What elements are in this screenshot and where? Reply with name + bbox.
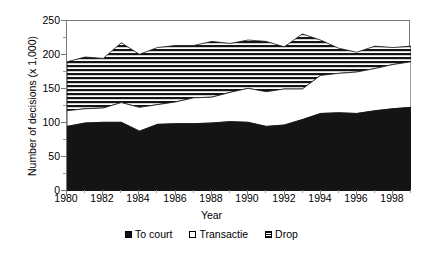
legend-item-transactie: Transactie [189,228,248,240]
x-tick-label-1990: 1990 [227,193,267,204]
x-tick-label-1980: 1980 [46,193,86,204]
legend-label-to-court: To court [135,228,172,240]
striped-swatch-icon [265,231,272,238]
x-tick-label-1996: 1996 [336,193,376,204]
legend-label-transactie: Transactie [199,228,248,240]
y-tick-label-150: 150 [20,83,60,93]
x-tick-label-1992: 1992 [264,193,304,204]
x-tick-label-1994: 1994 [300,193,340,204]
chart-figure: Number of decisions (x 1,000) 250 200 15… [0,0,423,257]
x-tick-label-1984: 1984 [118,193,158,204]
x-tick-label-1982: 1982 [82,193,122,204]
chart-legend: To court Transactie Drop [0,228,423,240]
y-tick-label-50: 50 [20,151,60,161]
solid-black-swatch-icon [125,231,132,238]
legend-label-drop: Drop [275,228,298,240]
y-tick-label-250: 250 [20,15,60,25]
stacked-area-svg [67,21,411,191]
y-tick-label-200: 200 [20,49,60,59]
x-tick-label-1998: 1998 [372,193,412,204]
legend-item-to-court: To court [125,228,172,240]
y-axis-title: Number of decisions (x 1,000) [26,11,38,201]
x-axis-title: Year [0,209,423,221]
legend-item-drop: Drop [265,228,298,240]
plot-area [66,20,410,190]
x-tick-label-1988: 1988 [191,193,231,204]
empty-white-swatch-icon [189,231,196,238]
y-tick-label-100: 100 [20,117,60,127]
x-tick-label-1986: 1986 [155,193,195,204]
